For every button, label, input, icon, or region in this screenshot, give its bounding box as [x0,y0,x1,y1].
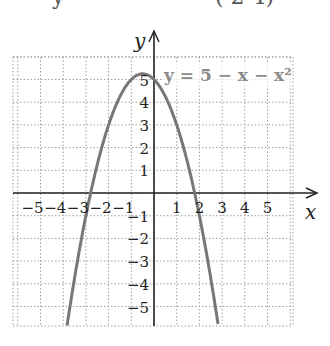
grid [13,57,293,326]
y-tick-label: −2 [127,230,149,248]
y-tick-label: 1 [139,162,149,180]
y-tick-label: 2 [139,140,149,158]
x-tick-label: 2 [195,199,205,217]
y-tick-label: −3 [127,253,149,271]
x-tick-label: 1 [172,199,182,217]
x-tick-label: −4 [44,199,66,217]
y-tick-label: −4 [127,276,149,294]
x-tick-label: 5 [263,199,273,217]
x-tick-label: 4 [240,199,250,217]
x-tick-label: −5 [21,199,43,217]
y-tick-label: 3 [139,117,149,135]
partial-header-right: ( 2 4) [215,0,274,9]
y-tick-label: −5 [127,299,149,317]
parabola-chart: y ( 2 4) −5−4−3−2−11234554321−1−2−3−4−5 … [0,0,330,346]
y-tick-label: −1 [127,208,149,226]
partial-header-left: y [51,0,65,9]
x-tick-label: 3 [217,199,227,217]
equation-label: y = 5 − x − x² [163,65,292,85]
y-axis-label: y [133,29,146,53]
y-tick-label: 4 [139,94,149,112]
x-tick-label: −3 [67,199,89,217]
x-axis-label: x [305,200,316,224]
x-tick-label: −2 [90,199,112,217]
tick-labels: −5−4−3−2−11234554321−1−2−3−4−5 [21,72,272,317]
y-tick-label: 5 [139,72,149,90]
